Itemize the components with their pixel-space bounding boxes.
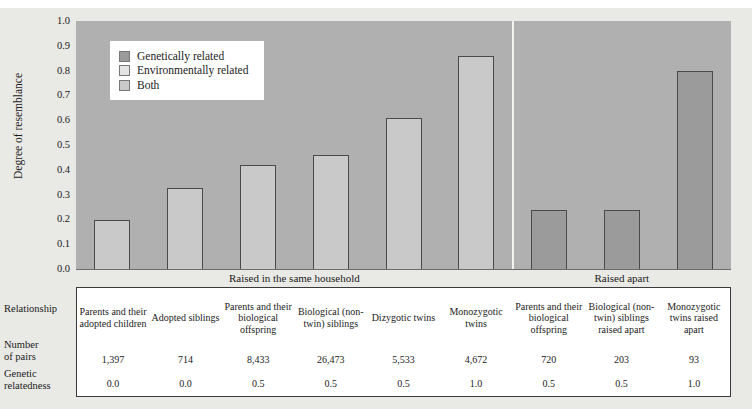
table-cell-pairs-7: 203 — [585, 348, 658, 372]
y-axis-tick-1-0: 1.0 — [57, 16, 70, 26]
group-caption-raised-apart: Raised apart — [513, 272, 731, 284]
table-cell-relationship-7: Biological (non-twin) siblings raised ap… — [585, 288, 658, 348]
bar-1 — [167, 188, 203, 270]
table-cell-pairs-2: 8,433 — [222, 348, 295, 372]
row-label-pairs-line1: Number — [4, 339, 38, 350]
legend-label-1: Environmentally related — [137, 64, 248, 77]
table-cell-relatedness-1: 0.0 — [149, 372, 222, 397]
row-label-relatedness-line1: Genetic — [4, 368, 37, 379]
table-cell-relatedness-0: 0.0 — [77, 372, 150, 397]
row-label-pairs-line2: of pairs — [4, 351, 36, 362]
table-cell-relationship-8: Monozygotic twins raised apart — [658, 288, 731, 348]
bar-6 — [531, 210, 567, 270]
legend-label-2: Both — [137, 79, 159, 92]
table-row-relationship: Parents and their adopted childrenAdopte… — [77, 288, 731, 348]
figure-container: Degree of resemblance 1.00.90.80.70.60.5… — [0, 8, 752, 409]
table-cell-relationship-4: Dizygotic twins — [367, 288, 440, 348]
table-cell-pairs-0: 1,397 — [77, 348, 150, 372]
table-cell-relationship-1: Adopted siblings — [149, 288, 222, 348]
y-axis-tick-0-9: 0.9 — [57, 41, 70, 51]
legend-swatch-icon-1 — [119, 65, 130, 76]
y-axis-tick-labels: 1.00.90.80.70.60.50.40.30.20.10.0 — [30, 21, 74, 270]
bar-7 — [604, 210, 640, 270]
table-cell-relatedness-5: 1.0 — [440, 372, 513, 397]
row-label-genetic-relatedness: Genetic relatedness — [4, 368, 74, 392]
table-cell-relationship-6: Parents and their biological offspring — [512, 288, 585, 348]
y-axis-tick-0-7: 0.7 — [57, 90, 70, 100]
y-axis-tick-0-1: 0.1 — [57, 239, 70, 249]
y-axis-tick-0-6: 0.6 — [57, 115, 70, 125]
group-caption-raised-together: Raised in the same household — [76, 272, 513, 284]
legend-item-0: Genetically related — [119, 50, 248, 63]
y-axis-tick-0-4: 0.4 — [57, 165, 70, 175]
table-row-genetic-relatedness: 0.00.00.50.50.51.00.50.51.0 — [77, 372, 731, 397]
table-cell-relatedness-2: 0.5 — [222, 372, 295, 397]
table-cell-pairs-3: 26,473 — [294, 348, 367, 372]
table-cell-relatedness-8: 1.0 — [658, 372, 731, 397]
x-axis-baseline — [76, 269, 731, 270]
bar-8 — [677, 71, 713, 270]
legend-label-0: Genetically related — [137, 50, 224, 63]
group-divider-line — [512, 21, 514, 270]
table-row-number-of-pairs: 1,3977148,43326,4735,5334,67272020393 — [77, 348, 731, 372]
y-axis-tick-0-0: 0.0 — [57, 264, 70, 274]
table-cell-relationship-5: Monozygotic twins — [440, 288, 513, 348]
legend-item-1: Environmentally related — [119, 64, 248, 77]
data-table: Parents and their adopted childrenAdopte… — [76, 287, 731, 397]
table-cell-pairs-4: 5,533 — [367, 348, 440, 372]
table-cell-relatedness-4: 0.5 — [367, 372, 440, 397]
y-axis-tick-0-2: 0.2 — [57, 214, 70, 224]
legend-swatch-icon-2 — [119, 80, 130, 91]
table-cell-relationship-2: Parents and their biological offspring — [222, 288, 295, 348]
table-cell-relatedness-6: 0.5 — [512, 372, 585, 397]
bar-4 — [386, 118, 422, 270]
y-axis-title: Degree of resemblance — [12, 46, 24, 206]
legend-swatch-icon-0 — [119, 51, 130, 62]
table-cell-pairs-8: 93 — [658, 348, 731, 372]
y-axis-tick-0-8: 0.8 — [57, 66, 70, 76]
table-cell-relationship-0: Parents and their adopted children — [77, 288, 150, 348]
table-cell-relationship-3: Biological (non-twin) siblings — [294, 288, 367, 348]
chart-plot-area: Genetically relatedEnvironmentally relat… — [76, 21, 731, 270]
row-label-relationship: Relationship — [4, 303, 74, 315]
bar-3 — [313, 155, 349, 270]
legend: Genetically relatedEnvironmentally relat… — [110, 41, 264, 100]
table-cell-pairs-6: 720 — [512, 348, 585, 372]
data-table-wrapper: Parents and their adopted childrenAdopte… — [76, 287, 731, 397]
table-cell-pairs-5: 4,672 — [440, 348, 513, 372]
table-cell-relatedness-7: 0.5 — [585, 372, 658, 397]
y-axis-tick-0-5: 0.5 — [57, 140, 70, 150]
table-cell-pairs-1: 714 — [149, 348, 222, 372]
bar-2 — [240, 165, 276, 270]
row-label-number-of-pairs: Number of pairs — [4, 339, 74, 363]
y-axis-tick-0-3: 0.3 — [57, 190, 70, 200]
row-label-relatedness-line2: relatedness — [4, 380, 51, 391]
bar-0 — [94, 220, 130, 270]
bar-5 — [458, 56, 494, 270]
table-cell-relatedness-3: 0.5 — [294, 372, 367, 397]
legend-item-2: Both — [119, 79, 248, 92]
